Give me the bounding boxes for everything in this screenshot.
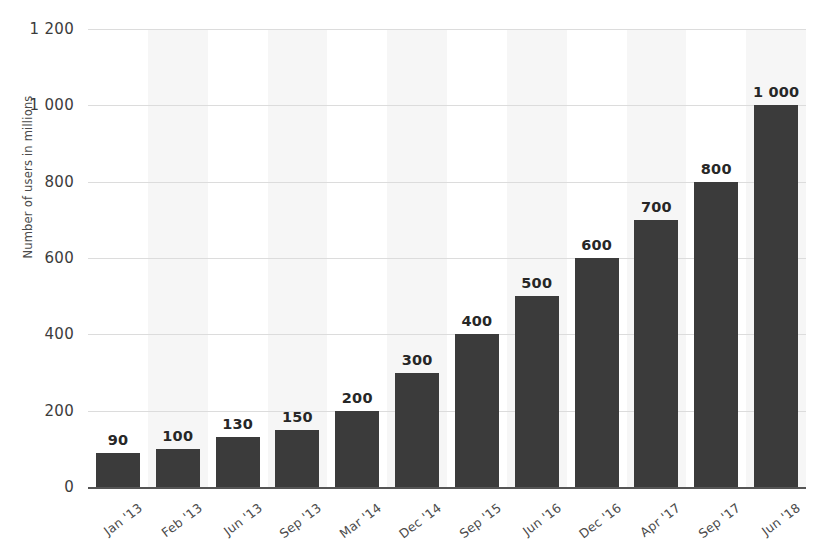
- bar[interactable]: [96, 453, 140, 487]
- x-tick-label: Jun '13: [200, 500, 265, 554]
- plot-area: 901001301502003004005006007008001 000: [88, 29, 806, 487]
- x-tick-label: Dec '14: [379, 500, 444, 554]
- bar-value-label: 130: [204, 416, 272, 432]
- bar-value-label: 90: [84, 432, 152, 448]
- bar-chart: Number of users in millions 020040060080…: [0, 0, 826, 559]
- bar[interactable]: [216, 437, 260, 487]
- x-tick-label: Sep '13: [259, 500, 324, 554]
- bar-value-label: 800: [682, 161, 750, 177]
- gridline: [88, 105, 806, 106]
- bar-value-label: 600: [563, 237, 631, 253]
- gridline: [88, 29, 806, 30]
- bar-value-label: 1 000: [742, 84, 810, 100]
- x-tick-label: Feb '13: [140, 500, 205, 554]
- y-tick-label: 400: [4, 325, 74, 343]
- bar[interactable]: [515, 296, 559, 487]
- x-tick-label: Sep '17: [678, 500, 743, 554]
- y-tick-label: 800: [4, 173, 74, 191]
- bar-value-label: 500: [503, 275, 571, 291]
- bar[interactable]: [395, 373, 439, 488]
- bar-value-label: 300: [383, 352, 451, 368]
- bar-value-label: 100: [144, 428, 212, 444]
- bar-value-label: 150: [263, 409, 331, 425]
- bar-value-label: 400: [443, 313, 511, 329]
- y-axis-tick-labels: 02004006008001 0001 200: [0, 0, 74, 559]
- bar[interactable]: [754, 105, 798, 487]
- y-tick-label: 200: [4, 402, 74, 420]
- x-tick-label: Apr '17: [618, 500, 683, 554]
- x-axis-line: [88, 487, 806, 489]
- y-tick-label: 600: [4, 249, 74, 267]
- y-tick-label: 1 200: [4, 20, 74, 38]
- bar[interactable]: [575, 258, 619, 487]
- bar[interactable]: [275, 430, 319, 487]
- bar-value-label: 200: [323, 390, 391, 406]
- x-axis-tick-labels: Jan '13Feb '13Jun '13Sep '13Mar '14Dec '…: [88, 492, 806, 559]
- bar-value-label: 700: [622, 199, 690, 215]
- bar[interactable]: [156, 449, 200, 487]
- bar[interactable]: [455, 334, 499, 487]
- x-tick-label: Sep '15: [439, 500, 504, 554]
- x-tick-label: Jun '16: [499, 500, 564, 554]
- bar[interactable]: [634, 220, 678, 487]
- x-tick-label: Jan '13: [80, 500, 145, 554]
- y-tick-label: 1 000: [4, 96, 74, 114]
- bar[interactable]: [335, 411, 379, 487]
- x-tick-label: Mar '14: [319, 500, 384, 554]
- x-tick-label: Jun '18: [738, 500, 803, 554]
- bar[interactable]: [694, 182, 738, 487]
- x-tick-label: Dec '16: [559, 500, 624, 554]
- y-tick-label: 0: [4, 478, 74, 496]
